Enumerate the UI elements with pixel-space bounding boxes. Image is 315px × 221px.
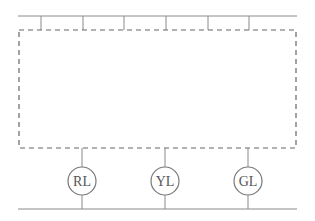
lamp-label: RL (73, 174, 91, 189)
circuit-diagram: RL YL GL (0, 0, 315, 221)
lamp-gl: GL (234, 148, 262, 209)
top-taps (41, 16, 249, 30)
lamp-label: YL (156, 174, 175, 189)
lamp-rl: RL (68, 148, 96, 209)
lamp-yl: YL (151, 148, 179, 209)
lamp-label: GL (239, 174, 258, 189)
dashed-box (19, 30, 296, 148)
